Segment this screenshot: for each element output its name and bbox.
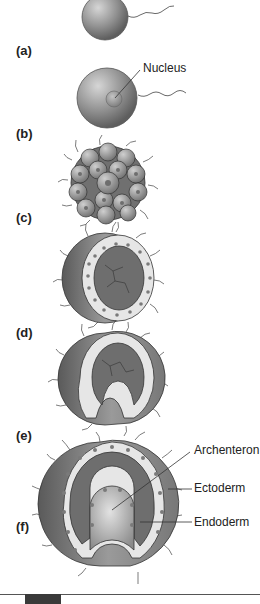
stage-label-d: (d) <box>16 325 33 340</box>
stage-b-egg <box>77 68 186 128</box>
stage-a-egg <box>82 0 174 40</box>
callout-archenteron: Archenteron <box>194 443 259 457</box>
stage-label-c: (c) <box>16 210 32 225</box>
sperm-tail-icon <box>128 6 174 17</box>
stage-f-late-gastrula <box>32 432 192 584</box>
callout-nucleus: Nucleus <box>143 61 186 75</box>
stage-label-f: (f) <box>16 519 29 534</box>
stage-c-morula <box>58 135 158 232</box>
embryo-development-diagram <box>0 0 260 604</box>
bottom-rule-block <box>25 594 61 604</box>
stage-d-blastula <box>53 222 164 332</box>
stage-e-early-gastrula <box>48 320 168 436</box>
archenteron-cavity <box>90 486 134 550</box>
callout-ectoderm: Ectoderm <box>194 481 245 495</box>
stage-label-a: (a) <box>16 43 32 58</box>
stage-label-b: (b) <box>16 126 33 141</box>
stage-label-e: (e) <box>16 428 32 443</box>
callout-endoderm: Endoderm <box>194 515 249 529</box>
